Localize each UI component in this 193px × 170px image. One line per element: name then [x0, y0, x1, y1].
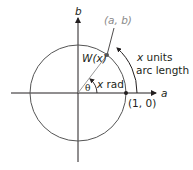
point-leader-line [107, 28, 114, 55]
angle-arc [90, 79, 97, 93]
arc-label-line1: x units [136, 51, 172, 63]
function-label: W(x) [82, 52, 107, 64]
horizontal-axis-label: a [161, 87, 167, 99]
theta-symbol: θ [85, 83, 90, 93]
angle-label: x rad [96, 78, 124, 90]
arc-label-line2: arc length [136, 64, 189, 76]
unit-circle-diagram: b a (a, b) W(x) θ x rad x units arc leng… [0, 0, 193, 170]
point-1-0 [124, 91, 128, 95]
start-point-label: (1, 0) [128, 97, 156, 109]
vertical-axis-label: b [75, 5, 82, 17]
point-a-b-label: (a, b) [104, 14, 132, 26]
